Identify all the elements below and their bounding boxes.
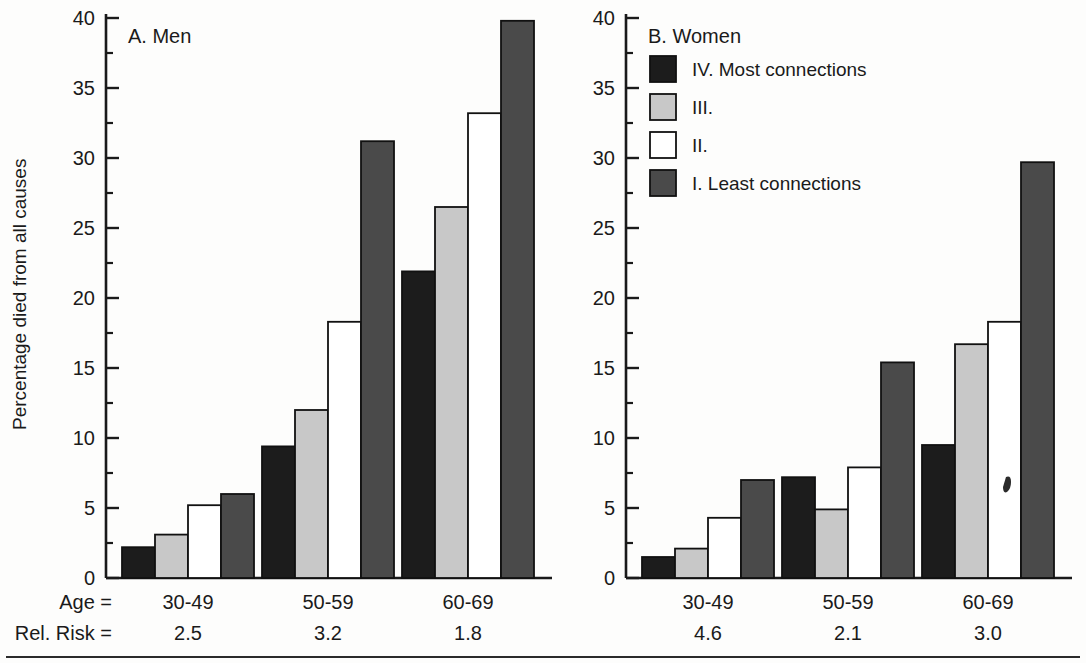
bar [402,271,435,578]
bar [361,141,394,578]
category-label: 60-69 [962,591,1013,613]
legend-label: III. [692,97,713,118]
bar [955,344,988,578]
panel-b-bars [642,162,1054,578]
bar [848,467,881,578]
bar [468,113,501,578]
bar [328,322,361,578]
bar [675,549,708,578]
y-tick-label: 40 [73,7,95,29]
y-tick-label: 20 [593,287,615,309]
category-label: 50-59 [822,591,873,613]
y-tick-label: 35 [73,77,95,99]
panel-b: 0510152025303540 B. Women 30-4950-5960-6… [593,7,1072,644]
bar [741,480,774,578]
bar [988,322,1021,578]
panel-a-bars [122,21,534,578]
age-row-label: Age = [59,591,112,613]
category-label: 30-49 [682,591,733,613]
panel-b-title: B. Women [648,25,741,47]
panel-a-category-labels: 30-4950-5960-69 [162,591,493,613]
legend-label: I. Least connections [692,173,861,194]
y-tick-label: 35 [593,77,615,99]
bar [221,494,254,578]
panel-a: 0510152025303540 A. Men 30-4950-5960-69 … [73,7,552,644]
y-axis-title: Percentage died from all causes [9,159,30,430]
bar [122,547,155,578]
y-tick-label: 20 [73,287,95,309]
rel-risk-value: 2.5 [174,622,202,644]
bar [155,535,188,578]
figure-page: Percentage died from all causes 05101520… [0,0,1086,663]
y-tick-label: 0 [604,567,615,589]
rel-risk-value: 4.6 [694,622,722,644]
y-tick-label: 5 [604,497,615,519]
panel-b-y-tick-labels: 0510152025303540 [593,7,615,589]
y-tick-label: 0 [84,567,95,589]
y-tick-label: 25 [73,217,95,239]
bar [815,509,848,578]
y-tick-label: 10 [73,427,95,449]
bar [435,207,468,578]
bar [782,477,815,578]
y-tick-label: 25 [593,217,615,239]
legend-swatch [650,94,676,120]
y-tick-label: 15 [73,357,95,379]
legend-swatch [650,132,676,158]
y-tick-label: 30 [593,147,615,169]
y-tick-label: 5 [84,497,95,519]
rel-risk-row-label: Rel. Risk = [15,622,112,644]
legend-swatch [650,170,676,196]
rel-risk-value: 3.2 [314,622,342,644]
rel-risk-value: 2.1 [834,622,862,644]
bar [501,21,534,578]
category-label: 30-49 [162,591,213,613]
rel-risk-value: 3.0 [974,622,1002,644]
bar [881,362,914,578]
category-label: 50-59 [302,591,353,613]
legend-label: IV. Most connections [692,59,867,80]
grouped-bar-chart-figure: Percentage died from all causes 05101520… [0,0,1086,663]
bar [188,505,221,578]
legend: IV. Most connectionsIII.II.I. Least conn… [650,56,867,196]
bar [642,557,675,578]
y-tick-label: 30 [73,147,95,169]
panel-b-rel-risk-values: 4.62.13.0 [694,622,1002,644]
bar [262,446,295,578]
panel-a-y-tick-labels: 0510152025303540 [73,7,95,589]
panel-a-rel-risk-values: 2.53.21.8 [174,622,482,644]
bar [922,445,955,578]
y-tick-label: 15 [593,357,615,379]
rel-risk-value: 1.8 [454,622,482,644]
bar [295,410,328,578]
y-tick-label: 40 [593,7,615,29]
y-tick-label: 10 [593,427,615,449]
panel-b-category-labels: 30-4950-5960-69 [682,591,1013,613]
bar [708,518,741,578]
legend-label: II. [692,135,708,156]
category-label: 60-69 [442,591,493,613]
panel-a-title: A. Men [128,25,191,47]
legend-swatch [650,56,676,82]
bar [1021,162,1054,578]
